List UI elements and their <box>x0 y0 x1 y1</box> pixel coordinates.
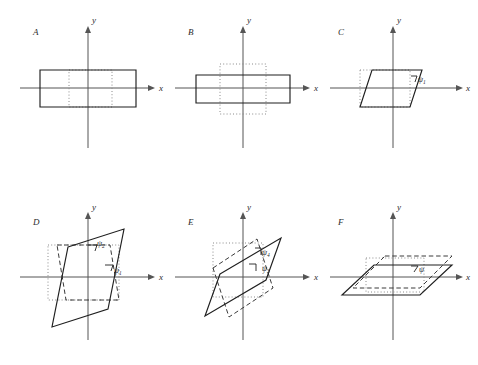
y-axis-label: y <box>396 15 401 25</box>
solid-parallelogram <box>342 265 452 295</box>
x-axis-label: x <box>313 272 318 282</box>
x-axis-arrow <box>148 274 155 280</box>
angle-tick-psi <box>411 266 418 272</box>
x-axis-label: x <box>158 272 163 282</box>
angle-tick-psi3 <box>249 264 256 271</box>
panel-label-B: B <box>188 27 194 37</box>
y-axis-arrow <box>240 26 246 33</box>
x-axis-label: x <box>158 83 163 93</box>
y-axis-arrow <box>85 212 91 219</box>
y-axis-label: y <box>91 15 96 25</box>
x-axis-label: x <box>313 83 318 93</box>
panel-F: ψ F x y <box>330 202 470 340</box>
angle-label-psi1: ψ1 <box>418 75 426 85</box>
y-axis-label: y <box>246 202 251 212</box>
panel-E: ψ4 ψ3 E x y <box>175 202 318 340</box>
panel-A: A x y <box>20 15 163 148</box>
shear-deformation-figure: A x y B x y ψ1 C x y <box>0 0 478 365</box>
angle-tick-psi2 <box>88 245 97 251</box>
panel-label-C: C <box>338 27 345 37</box>
y-axis-label: y <box>246 15 251 25</box>
x-axis-arrow <box>148 85 155 91</box>
panel-E-axes <box>175 212 310 340</box>
x-axis-label: x <box>465 272 470 282</box>
x-axis-arrow <box>456 85 463 91</box>
panel-B: B x y <box>175 15 318 148</box>
x-axis-arrow <box>456 274 463 280</box>
angle-label-psi2: ψ2 <box>97 239 105 249</box>
y-axis-arrow <box>240 212 246 219</box>
dashed-reference-parallelogram <box>353 256 452 288</box>
panel-D: ψ2 ψ1 D x y <box>20 202 163 340</box>
panel-D-axes <box>20 212 155 340</box>
angle-label-psi: ψ <box>419 265 425 274</box>
panel-label-F: F <box>337 217 344 227</box>
x-axis-arrow <box>303 274 310 280</box>
panel-C-axes <box>330 26 463 148</box>
panel-F-axes <box>330 212 463 340</box>
angle-label-psi1: ψ1 <box>114 266 122 276</box>
x-axis-label: x <box>465 83 470 93</box>
y-axis-arrow <box>85 26 91 33</box>
angle-tick-psi1 <box>411 76 417 82</box>
x-axis-arrow <box>303 85 310 91</box>
y-axis-arrow <box>390 212 396 219</box>
angle-tick-psi1 <box>105 265 113 271</box>
angle-label-psi3: ψ3 <box>262 264 270 274</box>
y-axis-arrow <box>390 26 396 33</box>
y-axis-label: y <box>396 202 401 212</box>
dotted-reference-rectangle <box>366 258 424 292</box>
panel-label-E: E <box>187 217 194 227</box>
y-axis-label: y <box>91 202 96 212</box>
panel-label-A: A <box>32 27 39 37</box>
panel-label-D: D <box>32 217 40 227</box>
panel-C: ψ1 C x y <box>330 15 470 148</box>
angle-label-psi4: ψ4 <box>262 248 270 258</box>
